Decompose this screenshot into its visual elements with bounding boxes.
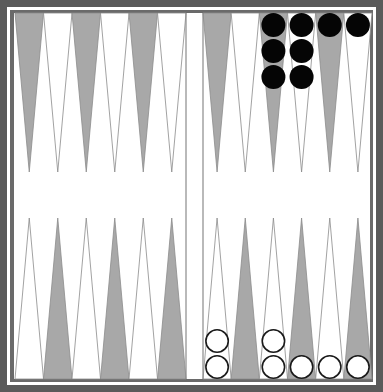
white-checker[interactable] bbox=[206, 356, 228, 378]
black-checker[interactable] bbox=[261, 65, 285, 89]
white-checker[interactable] bbox=[262, 356, 284, 378]
white-checker[interactable] bbox=[290, 356, 312, 378]
white-checker[interactable] bbox=[319, 356, 341, 378]
black-checker[interactable] bbox=[290, 13, 314, 37]
black-checker[interactable] bbox=[261, 39, 285, 63]
black-checker[interactable] bbox=[346, 13, 370, 37]
black-checker[interactable] bbox=[290, 65, 314, 89]
white-checker[interactable] bbox=[262, 330, 284, 352]
white-checker[interactable] bbox=[347, 356, 369, 378]
white-checker[interactable] bbox=[206, 330, 228, 352]
board-canvas bbox=[0, 0, 383, 392]
black-checker[interactable] bbox=[318, 13, 342, 37]
black-checker[interactable] bbox=[261, 13, 285, 37]
black-checker[interactable] bbox=[290, 39, 314, 63]
backgammon-board bbox=[0, 0, 383, 392]
